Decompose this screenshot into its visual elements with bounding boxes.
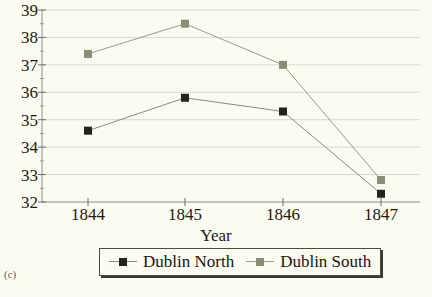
legend-marker-dublin-south xyxy=(246,256,274,268)
legend-item-dublin-south[interactable]: Dublin South xyxy=(246,252,371,272)
x-tick-label: 1844 xyxy=(56,206,120,223)
data-point xyxy=(279,61,287,69)
y-tick-label: 33 xyxy=(4,167,38,184)
legend-item-dublin-north[interactable]: Dublin North xyxy=(109,252,234,272)
legend-marker-dublin-north xyxy=(109,256,137,268)
data-point xyxy=(377,190,385,198)
data-point xyxy=(377,176,385,184)
y-tick-label: 37 xyxy=(4,57,38,74)
x-tick-label: 1847 xyxy=(349,206,413,223)
y-tick-label: 35 xyxy=(4,112,38,129)
legend-label-dublin-north: Dublin North xyxy=(143,252,234,272)
y-tick-label: 32 xyxy=(4,194,38,211)
y-tick-label: 34 xyxy=(4,139,38,156)
data-point xyxy=(279,107,287,115)
x-tick-label: 1845 xyxy=(153,206,217,223)
y-axis-tick-labels: 3233343536373839 xyxy=(0,0,38,297)
y-tick-label: 39 xyxy=(4,2,38,19)
chart-figure: 3233343536373839 1844184518461847 Year D… xyxy=(0,0,432,297)
legend-label-dublin-south: Dublin South xyxy=(280,252,371,272)
x-axis-title: Year xyxy=(0,226,432,246)
chart-legend: Dublin North Dublin South xyxy=(99,248,381,276)
y-tick-label: 38 xyxy=(4,29,38,46)
data-point xyxy=(84,127,92,135)
panel-label: (c) xyxy=(4,268,16,280)
data-point xyxy=(181,94,189,102)
y-tick-label: 36 xyxy=(4,84,38,101)
data-point xyxy=(181,20,189,28)
data-point xyxy=(84,50,92,58)
x-tick-label: 1846 xyxy=(251,206,315,223)
